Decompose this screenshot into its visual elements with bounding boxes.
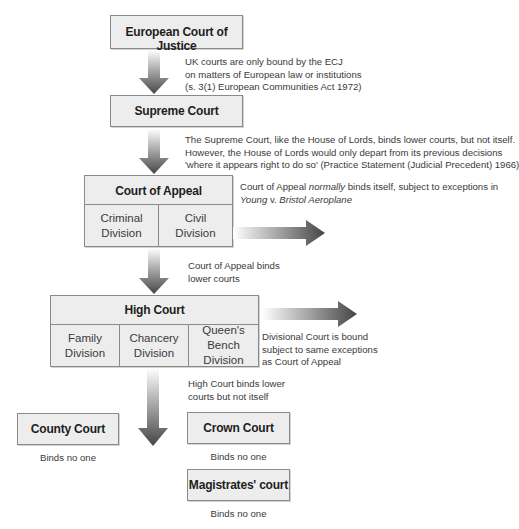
node-label: Magistrates' court [188,478,289,492]
node-label: Supreme Court [111,104,242,118]
node-court-of-appeal: Court of Appeal Criminal Division Civil … [84,175,233,247]
note-high-binds-lower: High Court binds lower courts but not it… [188,378,285,403]
note-line: UK courts are only bound by the ECJ [185,56,362,69]
division-label: Criminal [100,211,142,226]
note-divisional-court: Divisional Court is bound subject to sam… [262,331,378,369]
down-arrow-icon [138,50,170,94]
note-line: as Court of Appeal [262,356,378,369]
division-label: Civil [175,211,215,226]
note-line: High Court binds lower [188,378,285,391]
magistrates-court-caption: Binds no one [187,508,290,519]
node-supreme-court: Supreme Court [110,95,243,127]
division-civil: Civil Division [159,205,232,246]
case-name: Bristol Aeroplane [279,194,352,205]
division-label: Division [100,226,142,241]
note-line: (s. 3(1) European Communities Act 1972) [185,81,362,94]
division-label: Queen's Bench [189,323,258,353]
division-queens-bench: Queen's Bench Division [189,325,258,366]
node-label: Crown Court [188,421,289,435]
note-appeal-self: Court of Appeal normally binds itself, s… [240,181,498,206]
note-text: Court of Appeal [240,181,309,192]
division-family: Family Division [51,325,119,366]
crown-court-caption: Binds no one [187,451,290,462]
note-line: lower courts [188,273,280,286]
note-line: However, the House of Lords would only d… [185,147,519,160]
note-line: 'where it appears right to do so' (Pract… [185,159,519,172]
down-arrow-icon [137,368,169,446]
note-line: Court of Appeal normally binds itself, s… [240,181,498,194]
division-label: Division [189,353,258,368]
node-crown-court: Crown Court [187,412,290,444]
division-label: Family [65,331,105,346]
note-ecj-binding: UK courts are only bound by the ECJ on m… [185,56,362,94]
node-magistrates-court: Magistrates' court [187,469,290,501]
note-line: on matters of European law or institutio… [185,69,362,82]
node-label: High Court [51,303,258,317]
note-appeal-binds-lower: Court of Appeal binds lower courts [188,260,280,285]
note-emphasis: normally [309,181,345,192]
note-line: subject to same exceptions [262,344,378,357]
division-label: Division [65,346,105,361]
case-name: Young [240,194,267,205]
note-text: binds itself, subject to exceptions in [345,181,498,192]
node-high-court: High Court Family Division Chancery Divi… [50,295,259,367]
note-supreme-binding: The Supreme Court, like the House of Lor… [185,134,519,172]
node-european-court-of-justice: European Court of Justice [110,15,243,49]
division-label: Division [175,226,215,241]
note-line: courts but not itself [188,391,285,404]
down-arrow-icon [138,248,170,294]
node-label: Court of Appeal [85,184,232,198]
down-arrow-icon [138,129,170,174]
node-county-court: County Court [17,413,119,445]
division-chancery: Chancery Division [120,325,188,366]
note-line: The Supreme Court, like the House of Lor… [185,134,519,147]
node-label: European Court of Justice [111,25,242,53]
node-label: County Court [18,422,118,436]
division-label: Chancery [129,331,178,346]
note-line: Court of Appeal binds [188,260,280,273]
right-arrow-icon [262,301,357,327]
division-criminal: Criminal Division [85,205,158,246]
division-label: Division [129,346,178,361]
note-text: v. [267,194,279,205]
note-line: Young v. Bristol Aeroplane [240,194,498,207]
right-arrow-icon [233,220,325,246]
county-court-caption: Binds no one [17,452,119,463]
note-line: Divisional Court is bound [262,331,378,344]
